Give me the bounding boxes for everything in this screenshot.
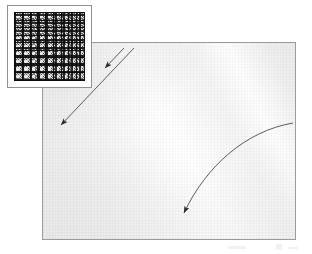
grid-cell [46,21,53,28]
grid-cell [46,36,53,43]
grid-cell [31,73,38,80]
grid-cell [54,51,61,58]
grid-cell [23,28,30,35]
grid-cell [46,66,53,73]
grid-cell [54,28,61,35]
grid-cell [69,13,76,20]
grid-cell [15,28,22,35]
grid-cell [15,51,22,58]
grid-cell [23,73,30,80]
inset-grid-image [14,12,85,81]
grid-inset-thumbnail [7,5,92,88]
grid-cell [54,73,61,80]
grid-cell [15,43,22,50]
grid-cell [23,66,30,73]
grid-cell [54,43,61,50]
grid-cell [38,66,45,73]
grid-cell [62,21,69,28]
grid-cell [77,28,84,35]
grid-cell [69,66,76,73]
grid-cell [62,13,69,20]
grid-cell [77,73,84,80]
grid-cell [38,73,45,80]
grid-cell [77,13,84,20]
grid-cell [31,43,38,50]
grid-cell [31,28,38,35]
grid-cell [62,58,69,65]
grid-cell [38,51,45,58]
grid-cell [54,58,61,65]
grid-cell [15,21,22,28]
grid-cell [62,73,69,80]
grid-cell [69,58,76,65]
scan-smudge-tail [288,247,298,249]
grid-cell [31,51,38,58]
grid-cell [69,51,76,58]
grid-cell [38,21,45,28]
grid-cell [46,73,53,80]
grid-cell [62,51,69,58]
inset-grid-cells [14,12,85,81]
grid-cell [77,66,84,73]
grid-cell [46,43,53,50]
grid-cell [46,28,53,35]
grid-cell [23,36,30,43]
grid-cell [38,43,45,50]
grid-cell [62,66,69,73]
grid-cell [15,66,22,73]
grid-cell [15,36,22,43]
grid-cell [31,66,38,73]
grid-cell [54,66,61,73]
grid-cell [23,51,30,58]
grid-cell [15,58,22,65]
grid-cell [46,58,53,65]
grid-cell [62,36,69,43]
grid-cell [69,73,76,80]
grid-cell [62,28,69,35]
grid-cell [69,28,76,35]
grid-cell [54,36,61,43]
grid-cell [38,58,45,65]
grid-cell [77,58,84,65]
scan-smudge-right [276,244,282,250]
grid-cell [46,51,53,58]
grid-cell [69,21,76,28]
grid-cell [77,36,84,43]
grid-cell [69,43,76,50]
grid-cell [31,58,38,65]
arrow-upper-straight [105,48,124,68]
grid-cell [77,51,84,58]
grid-cell [23,43,30,50]
grid-cell [23,58,30,65]
grid-cell [31,36,38,43]
figure-canvas [0,0,312,254]
grid-cell [54,13,61,20]
grid-cell [31,13,38,20]
grid-cell [23,21,30,28]
grid-cell [54,21,61,28]
grid-cell [15,13,22,20]
grid-cell [15,73,22,80]
grid-cell [77,21,84,28]
grid-cell [62,43,69,50]
grid-cell [31,21,38,28]
grid-cell [69,36,76,43]
grid-cell [46,13,53,20]
scan-smudge-left [228,246,246,249]
grid-cell [77,43,84,50]
grid-cell [23,13,30,20]
grid-cell [38,28,45,35]
arrow-curved-right [184,123,293,213]
grid-cell [38,36,45,43]
grid-cell [38,13,45,20]
